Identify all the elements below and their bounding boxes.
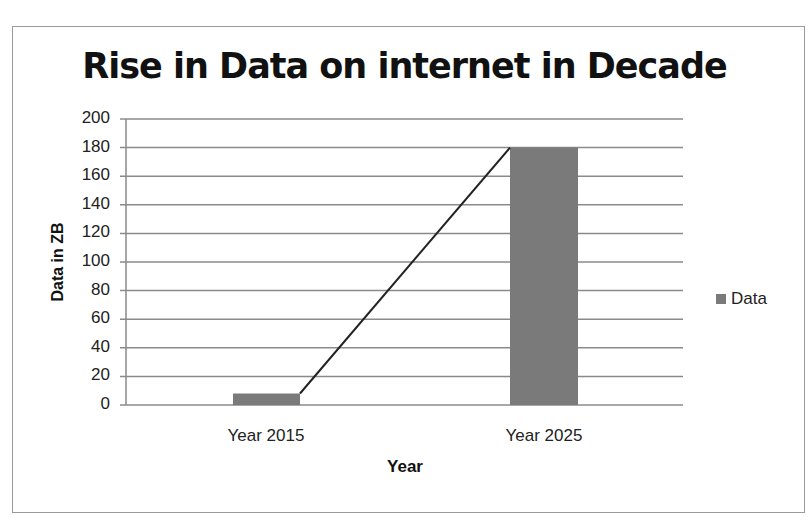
y-tick: 140 xyxy=(60,194,110,214)
y-tick: 60 xyxy=(60,308,110,328)
bar-year-2015 xyxy=(233,394,300,406)
y-tick: 100 xyxy=(60,251,110,271)
gridlines xyxy=(120,119,683,405)
y-tick: 20 xyxy=(60,365,110,385)
plot-area xyxy=(0,0,809,521)
legend-swatch-icon xyxy=(716,294,726,304)
y-tick: 160 xyxy=(60,165,110,185)
y-tick: 0 xyxy=(60,394,110,414)
y-tick: 200 xyxy=(60,108,110,128)
y-axis-title: Data in ZB xyxy=(49,222,67,301)
y-tick: 120 xyxy=(60,222,110,242)
x-axis-title: Year xyxy=(370,457,440,477)
x-tick-label: Year 2025 xyxy=(474,426,614,446)
bar-year-2025 xyxy=(510,148,578,405)
y-tick: 180 xyxy=(60,137,110,157)
legend: Data xyxy=(716,289,767,309)
legend-label: Data xyxy=(731,289,767,309)
y-tick: 80 xyxy=(60,280,110,300)
trend-line xyxy=(300,148,510,394)
y-tick: 40 xyxy=(60,337,110,357)
x-tick-label: Year 2015 xyxy=(196,426,336,446)
